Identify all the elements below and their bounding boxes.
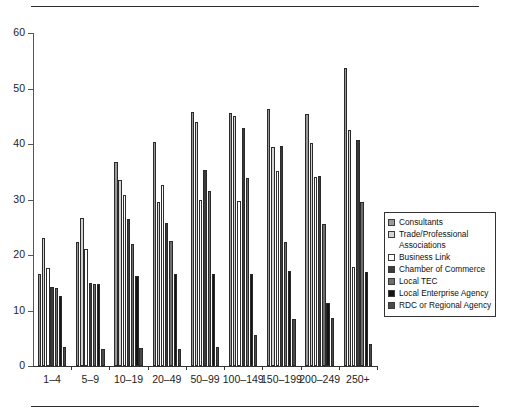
legend-item: Consultants <box>388 217 492 228</box>
y-axis-tick: 40 <box>28 144 33 145</box>
x-axis-tick-label: 20–49 <box>152 373 181 386</box>
legend-item-label: Trade/Professional Associations <box>399 229 468 251</box>
y-axis-tick-label: 20 <box>13 248 25 261</box>
bar <box>80 218 83 366</box>
x-axis-tick-label: 200–249 <box>299 373 340 386</box>
bar-group <box>153 33 182 366</box>
legend-item-label: Consultants <box>399 217 443 228</box>
legend-swatch-icon <box>388 219 395 226</box>
bar <box>199 200 202 367</box>
bar <box>191 112 194 366</box>
bar <box>276 171 279 366</box>
x-axis <box>33 366 377 367</box>
x-axis-tick-label: 100–149 <box>223 373 264 386</box>
bar <box>195 122 198 366</box>
legend-item-label: Local Enterprise Agency <box>399 288 488 299</box>
y-axis-tick-label: 50 <box>13 82 25 95</box>
y-axis-tick: 10 <box>28 311 33 312</box>
bar <box>322 224 325 366</box>
bar-group <box>267 33 296 366</box>
bar <box>212 274 215 366</box>
bar-group <box>191 33 220 366</box>
bar <box>55 288 58 366</box>
bar <box>203 170 206 366</box>
x-axis-tick <box>339 366 340 370</box>
legend-swatch-icon <box>388 231 395 238</box>
x-axis-tick <box>262 366 263 370</box>
y-axis-tick: 30 <box>28 200 33 201</box>
x-axis-tick <box>224 366 225 370</box>
bar <box>59 296 62 366</box>
top-rule <box>31 6 479 7</box>
y-axis <box>33 33 34 366</box>
legend-item-label: RDC or Regional Agency <box>399 300 491 311</box>
y-axis-tick-label: 10 <box>13 304 25 317</box>
bar-group <box>305 33 334 366</box>
bar <box>165 223 168 366</box>
bar-group <box>38 33 67 366</box>
legend-swatch-icon <box>388 254 395 261</box>
bar <box>348 130 351 366</box>
bar-group <box>229 33 258 366</box>
legend-item-label: Local TEC <box>399 276 438 287</box>
bar <box>178 349 181 366</box>
bar <box>118 180 121 366</box>
bar <box>284 242 287 366</box>
chart-figure: 0102030405060 1–45–910–1920–4950–99100–1… <box>0 0 505 416</box>
legend-item: Chamber of Commerce <box>388 264 492 275</box>
bar <box>208 191 211 366</box>
bar <box>84 249 87 366</box>
bar <box>292 319 295 366</box>
x-axis-tick <box>71 366 72 370</box>
bar <box>271 147 274 366</box>
x-axis-tick-label: 250+ <box>346 373 370 386</box>
bar <box>229 113 232 366</box>
legend-item: Business Link <box>388 252 492 263</box>
legend-swatch-icon <box>388 302 395 309</box>
x-axis-tick <box>148 366 149 370</box>
bar <box>216 347 219 366</box>
x-axis-tick-label: 50–99 <box>190 373 219 386</box>
bar <box>161 185 164 366</box>
legend-item: RDC or Regional Agency <box>388 300 492 311</box>
y-axis-tick-label: 0 <box>19 359 25 372</box>
x-axis-tick <box>186 366 187 370</box>
bar <box>331 318 334 366</box>
legend-swatch-icon <box>388 278 395 285</box>
legend-item: Trade/Professional Associations <box>388 229 492 251</box>
bar <box>254 335 257 366</box>
bar <box>233 116 236 366</box>
x-axis-tick <box>377 366 378 370</box>
legend-swatch-icon <box>388 266 395 273</box>
bar <box>369 344 372 366</box>
y-axis-tick: 20 <box>28 255 33 256</box>
bar <box>365 272 368 366</box>
bar <box>46 268 49 366</box>
bar <box>123 195 126 366</box>
y-axis-tick-label: 40 <box>13 137 25 150</box>
bar <box>139 348 142 366</box>
x-axis-tick-label: 150–199 <box>261 373 302 386</box>
y-axis-tick: 0 <box>28 366 33 367</box>
y-axis-tick-label: 60 <box>13 26 25 39</box>
bar <box>101 349 104 366</box>
bar <box>97 284 100 366</box>
y-axis-tick-label: 30 <box>13 193 25 206</box>
bar <box>242 128 245 366</box>
bar <box>63 347 66 366</box>
bar <box>157 202 160 366</box>
bar <box>326 303 329 366</box>
x-axis-tick <box>109 366 110 370</box>
plot-area: 0102030405060 1–45–910–1920–4950–99100–1… <box>33 33 377 366</box>
x-axis-tick-label: 1–4 <box>43 373 61 386</box>
bar <box>131 244 134 366</box>
chart-legend: ConsultantsTrade/Professional Associatio… <box>384 212 496 317</box>
bar <box>344 68 347 366</box>
bar <box>352 267 355 366</box>
bar <box>89 283 92 366</box>
bar <box>305 114 308 366</box>
bar <box>318 176 321 366</box>
bar <box>93 284 96 366</box>
x-axis-tick <box>301 366 302 370</box>
x-axis-tick-label: 10–19 <box>114 373 143 386</box>
